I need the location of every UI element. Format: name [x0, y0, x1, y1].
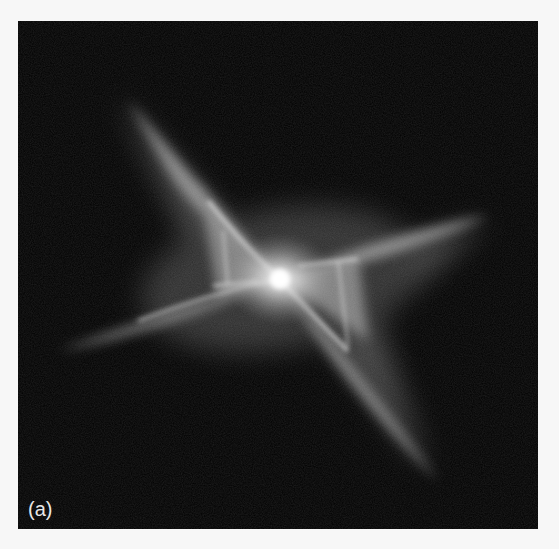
nebula-image [18, 21, 538, 529]
panel-label: (a) [28, 498, 52, 521]
nebula-image-panel: (a) [18, 21, 538, 529]
